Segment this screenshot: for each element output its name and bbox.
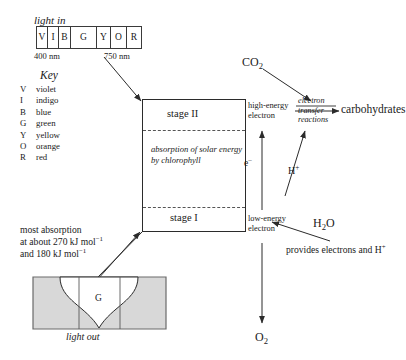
key-row-orange: Oorange (20, 141, 120, 152)
absorption-note-line3: and 180 kJ mol (20, 248, 79, 259)
wavelength-max-label: 750 nm (104, 51, 130, 61)
key-row-indigo: Iindigo (20, 95, 120, 106)
spectrum-cell-b[interactable]: B (59, 27, 71, 48)
key-abbr: O (20, 141, 36, 152)
key-row-blue: Bblue (20, 107, 120, 118)
absorption-description: absorption of solar energy by chlorophyl… (151, 144, 243, 166)
high-energy-electron-label: high-energy electron (248, 101, 294, 121)
spectrum-cell-g[interactable]: G (71, 27, 97, 48)
key-row-violet: Vviolet (20, 84, 120, 95)
key-list: VvioletIindigoBblueGgreenYyellowOorangeR… (20, 84, 120, 164)
spectrum-cell-r[interactable]: R (127, 27, 141, 48)
key-abbr: Y (20, 130, 36, 141)
absorption-note: most absorption at about 270 kJ mol−1 an… (20, 224, 160, 260)
absorption-note-line1: most absorption (20, 224, 82, 235)
key-abbr: B (20, 107, 36, 118)
low-energy-electron-label: low-energy electron (248, 214, 294, 234)
key-word: blue (36, 107, 51, 118)
light-out-band-letter: G (95, 293, 102, 303)
carbohydrates-label: carbohydrates (341, 103, 406, 115)
key-word: green (36, 118, 56, 129)
spectrum-cell-i[interactable]: I (48, 27, 59, 48)
key-abbr: I (20, 95, 36, 106)
key-word: indigo (36, 95, 58, 106)
proton-symbol-label: H+ (288, 165, 299, 176)
key-row-yellow: Yyellow (20, 130, 120, 141)
o2-label: O2 (255, 330, 268, 345)
h2o-label: H2O (313, 216, 335, 231)
light-in-label: light in (34, 14, 65, 26)
absorption-note-sup1: −1 (96, 235, 103, 242)
electron-transfer-reactions-label: electron transfer reactions (298, 96, 338, 125)
co2-label: CO2 (242, 55, 263, 70)
light-out-graph (33, 277, 166, 329)
spectrum-cell-y[interactable]: Y (97, 27, 111, 48)
key-word: yellow (36, 130, 60, 141)
key-title: Key (40, 69, 58, 81)
key-word: orange (36, 141, 60, 152)
stage-one-label: stage I (170, 212, 198, 223)
wavelength-min-label: 400 nm (34, 51, 60, 61)
provides-electrons-note: provides electrons and H+ (286, 244, 392, 256)
dashed-divider-top (143, 130, 245, 131)
absorption-note-sup2: −1 (79, 247, 86, 254)
key-abbr: G (20, 118, 36, 129)
light-out-label: light out (66, 331, 100, 342)
electron-symbol-label: e– (244, 158, 252, 168)
key-abbr: R (20, 152, 36, 163)
key-abbr: V (20, 84, 36, 95)
absorption-note-line2: at about 270 kJ mol (20, 236, 96, 247)
key-word: violet (36, 84, 56, 95)
key-row-red: Rred (20, 152, 120, 163)
spectrum-cell-o[interactable]: O (111, 27, 127, 48)
key-row-green: Ggreen (20, 118, 120, 129)
dashed-divider-bottom (143, 207, 245, 208)
stage-two-label: stage II (167, 108, 198, 119)
spectrum-bar[interactable]: VIBGYOR (36, 26, 142, 49)
spectrum-cell-v[interactable]: V (37, 27, 48, 48)
key-word: red (36, 152, 47, 163)
